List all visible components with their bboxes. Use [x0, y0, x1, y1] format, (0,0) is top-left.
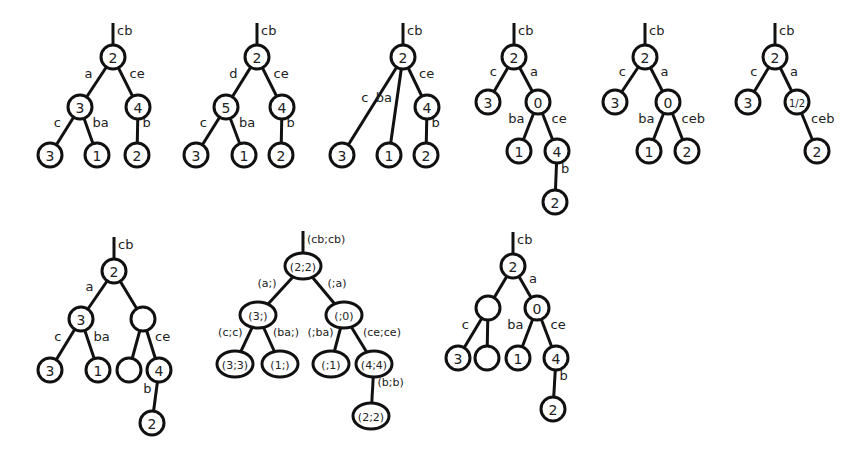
root-edge-label: cb: [261, 23, 276, 38]
edge-label: ce: [155, 329, 170, 344]
node-label: (;1): [321, 359, 340, 372]
edge-label: (ba;): [273, 326, 299, 339]
node-label: 3: [338, 148, 347, 164]
node-label: 0: [534, 95, 543, 111]
tree-node: 4: [415, 95, 439, 119]
edge-label: ce: [551, 317, 566, 332]
tree-node: 2: [501, 254, 525, 278]
node-label: (3;3): [222, 359, 248, 372]
tree-node: 4: [126, 95, 150, 119]
node-label: 2: [110, 264, 119, 280]
tree-node: 0: [526, 90, 550, 114]
edge-label: c: [54, 115, 61, 130]
edge-label: ce: [419, 66, 434, 81]
tree-node: 4: [147, 358, 171, 382]
node-label: 2: [549, 402, 558, 418]
root-edge-label: cb: [118, 237, 133, 252]
edge-label: ce: [552, 111, 567, 126]
edge-label: ceb: [682, 111, 705, 126]
tree-node: 2: [125, 143, 149, 167]
tree-node: 2: [391, 45, 415, 69]
tree-node: 2: [269, 143, 293, 167]
tree-node: 3: [38, 143, 62, 167]
edge-label: ce: [274, 66, 289, 81]
node-label: 4: [278, 100, 287, 116]
tree-node: 3: [69, 307, 93, 331]
tree-node: 1: [507, 139, 531, 163]
edge-label: (b;b): [378, 376, 404, 389]
node-label: 2: [253, 50, 262, 66]
tree-node: 1: [377, 143, 401, 167]
node-label: 2: [551, 195, 560, 211]
tree-3: cbcbaceb24312: [330, 23, 440, 167]
tree-node: 3: [603, 90, 627, 114]
root-edge-label: cb: [518, 23, 533, 38]
tree-node: 2: [140, 411, 164, 435]
edge-label: (a;): [257, 277, 276, 290]
tree-node: (2;2): [285, 253, 321, 279]
tree-node: 4: [270, 95, 294, 119]
tree-4: cbcabaceb230142: [476, 23, 569, 214]
tree-node: 2: [633, 45, 657, 69]
tree-node: (;1): [313, 351, 349, 377]
edge-label: a: [790, 64, 798, 79]
node-circle: [476, 296, 500, 320]
node-label: 0: [533, 301, 542, 317]
node-label: 3: [76, 100, 85, 116]
tree-node: (3;): [240, 302, 276, 328]
tree-node: [131, 307, 155, 331]
tree-edge: [342, 57, 403, 155]
edge-label: ceb: [811, 111, 834, 126]
node-label: (1;): [270, 359, 289, 372]
tree-node: 1: [86, 358, 110, 382]
tree-node: 5: [214, 95, 238, 119]
node-label: 4: [423, 100, 432, 116]
tree-8: (cb;cb)(a;)(;a)(c;c)(ba;)(;ba)(ce;ce)(b;…: [217, 231, 404, 429]
node-label: (2;2): [290, 261, 316, 274]
node-label: 3: [46, 148, 55, 164]
root-edge-label: cb: [517, 232, 532, 247]
edge-label: c: [750, 64, 757, 79]
tree-node: 2: [502, 45, 526, 69]
edge-label: a: [86, 279, 94, 294]
tree-node: [117, 358, 141, 382]
tree-node: 0: [656, 90, 680, 114]
root-edge-label: cb: [407, 23, 422, 38]
tree-1: cbacecbab234312: [38, 23, 151, 167]
tree-node: [475, 346, 499, 370]
tree-node: [476, 296, 500, 320]
node-label: 1: [514, 351, 523, 367]
root-edge-label: cb: [649, 23, 664, 38]
edge-label: c: [200, 115, 207, 130]
tree-node: 1/2: [785, 90, 809, 114]
edge-label: ba: [507, 317, 523, 332]
tree-node: 2: [805, 139, 829, 163]
node-label: 3: [192, 148, 201, 164]
root-edge-label: cb: [779, 23, 794, 38]
edge-label: c: [54, 329, 61, 344]
node-label: 2: [133, 148, 142, 164]
node-label: 2: [683, 144, 692, 160]
root-edge-label: (cb;cb): [307, 233, 345, 246]
tree-node: 3: [184, 143, 208, 167]
edge-label: ce: [130, 66, 145, 81]
edge-label: ba: [239, 115, 255, 130]
node-label: 3: [484, 95, 493, 111]
edge-label: c: [361, 90, 368, 105]
node-circle: [131, 307, 155, 331]
tree-node: (4;4): [356, 351, 392, 377]
tree-node: 3: [38, 358, 62, 382]
node-label: 1: [240, 148, 249, 164]
tree-6: cbcaceb231/22: [736, 23, 834, 163]
node-label: 2: [509, 259, 518, 275]
tree-node: (2;2): [353, 403, 389, 429]
tree-node: 2: [101, 45, 125, 69]
node-label: 2: [109, 50, 118, 66]
edge-label: c: [490, 64, 497, 79]
node-label: 0: [664, 95, 673, 111]
tree-diagram-canvas: cbacecbab234312cbdcecbab254312cbcbaceb24…: [0, 0, 860, 453]
tree-node: 4: [545, 139, 569, 163]
tree-5: cbcabaceb23012: [603, 23, 705, 163]
tree-7: cbacbaceb233142: [38, 237, 171, 435]
edge-label: a: [85, 66, 93, 81]
